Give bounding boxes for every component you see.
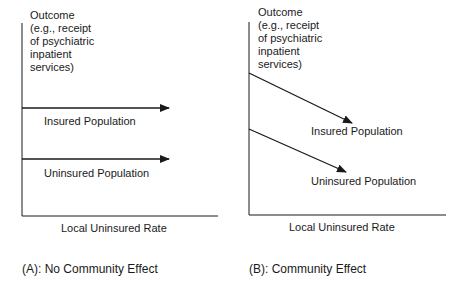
y-label-line: (e.g., receipt: [258, 19, 322, 32]
y-label-line: Outcome: [258, 6, 322, 19]
y-label-line: of psychiatric: [258, 32, 322, 45]
panel-a-caption: (A): No Community Effect: [22, 262, 158, 276]
panel-b-caption: (B): Community Effect: [249, 262, 366, 276]
panel-b-y-axis-label: Outcome (e.g., receipt of psychiatric in…: [258, 6, 322, 71]
y-label-line: services): [30, 61, 94, 74]
y-label-line: Outcome: [30, 9, 94, 22]
y-label-line: services): [258, 58, 322, 71]
panel-b-insured-label: Insured Population: [311, 125, 403, 138]
y-label-line: inpatient: [258, 45, 322, 58]
y-label-line: (e.g., receipt: [30, 22, 94, 35]
panel-b-x-axis-label: Local Uninsured Rate: [289, 221, 395, 234]
panel-b-insured-arrow: [249, 73, 352, 123]
panel-a-insured-label: Insured Population: [44, 115, 136, 128]
panel-b-uninsured-label: Uninsured Population: [311, 175, 416, 188]
y-label-line: inpatient: [30, 48, 94, 61]
panel-a-y-axis-label: Outcome (e.g., receipt of psychiatric in…: [30, 9, 94, 74]
panel-a-x-axis-label: Local Uninsured Rate: [61, 222, 167, 235]
y-label-line: of psychiatric: [30, 35, 94, 48]
panel-a-uninsured-label: Uninsured Population: [44, 167, 149, 180]
